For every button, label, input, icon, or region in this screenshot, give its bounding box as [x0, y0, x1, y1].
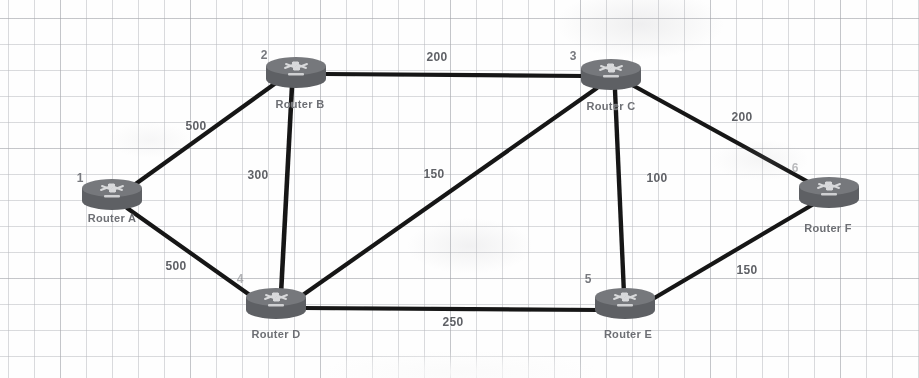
node-number-5: 5: [585, 272, 592, 286]
node-number-2: 2: [261, 48, 268, 62]
node-label-router-e: Router E: [604, 328, 652, 340]
link-weight-E-F: 150: [736, 263, 757, 277]
link-weight-D-C: 150: [423, 167, 444, 181]
node-label-router-a: Router A: [88, 212, 136, 224]
node-label-router-c: Router C: [587, 100, 636, 112]
link-C-F: [634, 86, 812, 184]
link-D-C: [300, 88, 597, 297]
node-number-3: 3: [570, 49, 577, 63]
router-icon: [594, 286, 656, 320]
router-icon: [798, 175, 860, 209]
node-label-router-b: Router B: [276, 98, 325, 110]
router-node-F[interactable]: [798, 175, 860, 213]
node-label-router-d: Router D: [252, 328, 301, 340]
link-weight-D-E: 250: [442, 315, 463, 329]
router-icon: [580, 57, 642, 91]
link-weight-B-C: 200: [426, 50, 447, 64]
link-weight-C-F: 200: [731, 110, 752, 124]
node-number-6: 6: [792, 161, 799, 175]
link-weight-A-D: 500: [165, 259, 186, 273]
link-C-E: [615, 90, 624, 294]
link-weight-B-D: 300: [247, 168, 268, 182]
link-weight-C-E: 100: [646, 171, 667, 185]
link-E-F: [651, 205, 812, 300]
router-node-E[interactable]: [594, 286, 656, 324]
router-node-A[interactable]: [81, 177, 143, 215]
node-number-4: 4: [237, 272, 244, 286]
router-node-D[interactable]: [245, 286, 307, 324]
node-label-router-f: Router F: [804, 222, 852, 234]
router-icon: [81, 177, 143, 211]
link-weight-A-B: 500: [185, 119, 206, 133]
network-diagram-canvas: 1 Router A 2 Router B: [0, 0, 919, 378]
router-icon: [265, 55, 327, 89]
link-B-D: [281, 86, 292, 294]
link-A-D: [127, 208, 254, 298]
router-node-C[interactable]: [580, 57, 642, 95]
router-icon: [245, 286, 307, 320]
node-number-1: 1: [77, 171, 84, 185]
router-node-B[interactable]: [265, 55, 327, 93]
link-B-C: [325, 74, 585, 76]
link-D-E: [302, 308, 600, 310]
